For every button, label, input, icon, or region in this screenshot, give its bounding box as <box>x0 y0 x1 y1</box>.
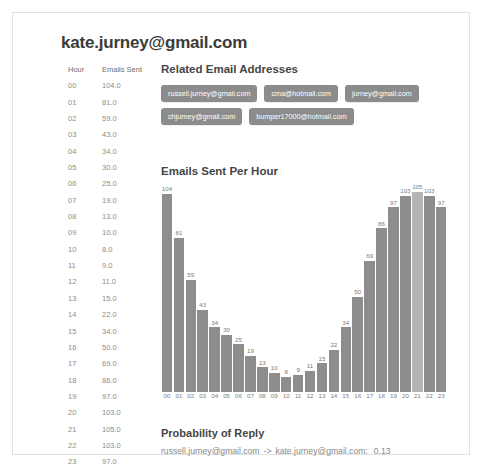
cell-hour: 19 <box>68 392 102 401</box>
chart-x-tick-label: 12 <box>304 393 316 399</box>
chart-bar-column[interactable]: 59 <box>185 183 197 392</box>
table-row: 1534.0 <box>68 327 154 343</box>
chart-bar[interactable] <box>364 261 375 392</box>
table-row: 00104.0 <box>68 81 154 97</box>
chart-bar-column[interactable]: 10 <box>268 183 280 392</box>
chart-bar-column[interactable]: 8 <box>280 183 292 392</box>
column-header-hour: Hour <box>68 65 102 74</box>
app-root: kate.jurney@gmail.com Hour Emails Sent 0… <box>0 0 484 475</box>
chart-bar[interactable] <box>436 207 447 392</box>
table-row: 1650.0 <box>68 343 154 359</box>
chart-bar-column[interactable]: 34 <box>340 183 352 392</box>
chart-x-axis: 0001020304050607080910111213141516171819… <box>161 393 447 399</box>
related-address-tag[interactable]: jurney@gmail.com <box>345 85 419 102</box>
chart-bar[interactable] <box>245 356 256 392</box>
probability-arrow: -> <box>260 446 276 456</box>
chart-x-tick-label: 19 <box>388 393 400 399</box>
chart-bar-value-label: 13 <box>259 360 266 366</box>
related-address-tag[interactable]: cma@hotmail.com <box>264 85 338 102</box>
cell-hour: 03 <box>68 130 102 139</box>
chart-bar[interactable] <box>376 228 387 392</box>
chart-bar-column[interactable]: 81 <box>173 183 185 392</box>
chart-bar-column[interactable]: 50 <box>352 183 364 392</box>
chart-bar-value-label: 103 <box>400 188 410 194</box>
chart-bar-column[interactable]: 104 <box>161 183 173 392</box>
table-row: 2397.0 <box>68 457 154 473</box>
cell-hour: 02 <box>68 114 102 123</box>
table-header-row: Hour Emails Sent <box>68 65 154 81</box>
chart-bar[interactable] <box>412 192 423 392</box>
chart-bar[interactable] <box>293 375 304 392</box>
chart-bar[interactable] <box>233 344 244 392</box>
chart-bar[interactable] <box>424 196 435 392</box>
cell-emails-sent: 15.0 <box>102 294 154 303</box>
cell-emails-sent: 34.0 <box>102 327 154 336</box>
chart-bar[interactable] <box>162 194 173 392</box>
cell-hour: 14 <box>68 310 102 319</box>
cell-emails-sent: 97.0 <box>102 392 154 401</box>
chart-bar-value-label: 9 <box>296 367 299 373</box>
cell-emails-sent: 43.0 <box>102 130 154 139</box>
chart-bar[interactable] <box>281 377 292 392</box>
chart-bar-column[interactable]: 105 <box>411 183 423 392</box>
chart-bar[interactable] <box>269 373 280 392</box>
cell-emails-sent: 86.0 <box>102 376 154 385</box>
cell-hour: 09 <box>68 228 102 237</box>
chart-bar[interactable] <box>257 367 268 392</box>
cell-hour: 17 <box>68 359 102 368</box>
chart-bar-column[interactable]: 30 <box>221 183 233 392</box>
chart-bar[interactable] <box>341 327 352 392</box>
chart-bar-column[interactable]: 25 <box>233 183 245 392</box>
chart-bar-column[interactable]: 15 <box>316 183 328 392</box>
chart-x-tick-label: 11 <box>292 393 304 399</box>
table-row: 1886.0 <box>68 376 154 392</box>
hourly-emails-table: Hour Emails Sent 00104.00181.00259.00343… <box>68 65 154 474</box>
chart-bar-column[interactable]: 69 <box>364 183 376 392</box>
chart-bar[interactable] <box>186 280 197 392</box>
chart-bar[interactable] <box>317 363 328 392</box>
chart-x-tick-label: 20 <box>399 393 411 399</box>
cell-emails-sent: 9.0 <box>102 261 154 270</box>
table-row: 1315.0 <box>68 294 154 310</box>
chart-bar-value-label: 22 <box>330 342 337 348</box>
chart-bar[interactable] <box>352 297 363 392</box>
chart-bar[interactable] <box>329 350 340 392</box>
chart-bar-column[interactable]: 103 <box>423 183 435 392</box>
chart-bar-column[interactable]: 9 <box>292 183 304 392</box>
chart-bar-value-label: 86 <box>378 221 385 227</box>
chart-bar[interactable] <box>221 335 232 392</box>
related-address-tag[interactable]: bumper17000@hotmail.com <box>249 108 353 125</box>
chart-bar-column[interactable]: 22 <box>328 183 340 392</box>
chart-bar-column[interactable]: 97 <box>435 183 447 392</box>
table-row: 0434.0 <box>68 147 154 163</box>
chart-bar[interactable] <box>305 371 316 392</box>
chart-x-tick-label: 17 <box>364 393 376 399</box>
chart-x-tick-label: 00 <box>161 393 173 399</box>
chart-bar-column[interactable]: 43 <box>197 183 209 392</box>
cell-emails-sent: 69.0 <box>102 359 154 368</box>
cell-hour: 15 <box>68 327 102 336</box>
chart-x-tick-label: 15 <box>340 393 352 399</box>
related-address-tag[interactable]: chjurney@gmail.com <box>161 108 242 125</box>
chart-bar-column[interactable]: 97 <box>388 183 400 392</box>
chart-bar-column[interactable]: 13 <box>256 183 268 392</box>
related-address-tag[interactable]: russell.jurney@gmail.com <box>161 85 257 102</box>
cell-emails-sent: 59.0 <box>102 114 154 123</box>
cell-hour: 22 <box>68 441 102 450</box>
chart-plot-area: 1048159433430251913108911152234506986971… <box>161 183 447 392</box>
chart-bar[interactable] <box>209 327 220 392</box>
chart-bar-column[interactable]: 103 <box>399 183 411 392</box>
chart-bar-column[interactable]: 86 <box>376 183 388 392</box>
chart-bar-column[interactable]: 19 <box>244 183 256 392</box>
cell-emails-sent: 8.0 <box>102 245 154 254</box>
chart-bar[interactable] <box>174 238 185 392</box>
chart-bar-column[interactable]: 11 <box>304 183 316 392</box>
cell-hour: 04 <box>68 147 102 156</box>
chart-x-tick-label: 08 <box>256 393 268 399</box>
probability-of-reply-heading: Probability of Reply <box>161 427 264 439</box>
chart-bar[interactable] <box>388 207 399 392</box>
chart-bar-column[interactable]: 34 <box>209 183 221 392</box>
chart-bar[interactable] <box>400 196 411 392</box>
chart-bar[interactable] <box>197 310 208 392</box>
cell-hour: 00 <box>68 81 102 90</box>
